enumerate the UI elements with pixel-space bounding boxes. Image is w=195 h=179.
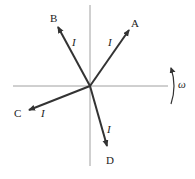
phasor-c-arrow [29,86,90,110]
rotation-arrow-icon [171,68,174,104]
phasor-d-magnitude: I [106,123,112,135]
phasor-diagram: A B C D I I I I ω [0,0,195,179]
phasor-c-magnitude: I [40,107,46,119]
phasor-d-label: D [106,154,114,166]
omega-label: ω [178,78,186,90]
phasor-d-arrow [90,86,107,146]
phasor-a-magnitude: I [107,36,113,48]
phasor-a-label: A [131,17,139,29]
phasor-b-magnitude: I [71,36,77,48]
phasor-c-label: C [14,107,21,119]
phasor-b-label: B [50,12,57,24]
